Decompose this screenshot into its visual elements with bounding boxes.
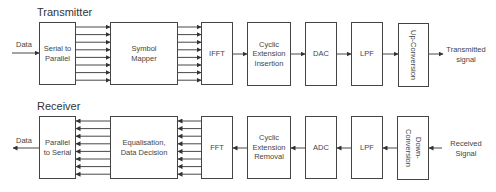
adc-block: ADC xyxy=(305,116,337,179)
block-label: Equalisation, Data Decision xyxy=(118,138,170,157)
fft-block: FFT xyxy=(201,116,233,179)
cyclic-extension-removal-block: Cyclic Extension Removal xyxy=(247,116,291,179)
transmitted-signal-label: Transmittedsignal xyxy=(443,45,489,64)
lpf-tx-block: LPF xyxy=(351,22,383,86)
serial-to-parallel-block: Serial to Parallel xyxy=(39,22,76,85)
block-label: DAC xyxy=(313,49,329,59)
block-label: Symbol Mapper xyxy=(126,44,162,63)
down-conversion-block: Down-Conversion xyxy=(397,116,429,180)
block-label: Up-Conversion xyxy=(409,27,419,83)
label-line: signal xyxy=(443,55,489,65)
cyclic-extension-insertion-block: Cyclic Extension Insertion xyxy=(247,22,291,86)
lpf-rx-block: LPF xyxy=(351,116,383,179)
block-label: Down-Conversion xyxy=(404,120,423,176)
transmitter-title: Transmitter xyxy=(37,6,92,18)
dac-block: DAC xyxy=(305,22,337,86)
ifft-block: IFFT xyxy=(201,22,233,85)
symbol-mapper-block: Symbol Mapper xyxy=(110,22,178,85)
block-label: FFT xyxy=(210,143,224,153)
block-label: Serial to Parallel xyxy=(43,44,73,63)
rx-output-data-label: Data xyxy=(16,136,32,146)
label-line: Signal xyxy=(443,149,489,159)
block-label: Cyclic Extension Removal xyxy=(249,133,289,162)
block-label: Cyclic Extension Insertion xyxy=(249,40,289,69)
block-label: ADC xyxy=(313,143,329,153)
equalisation-data-decision-block: Equalisation, Data Decision xyxy=(110,116,178,179)
block-label: LPF xyxy=(360,143,374,153)
receiver-title: Receiver xyxy=(37,100,80,112)
label-line: Transmitted xyxy=(443,45,489,55)
parallel-to-serial-block: Parallel to Serial xyxy=(39,116,76,179)
block-label: Parallel to Serial xyxy=(42,138,74,157)
tx-input-data-label: Data xyxy=(16,40,32,50)
received-signal-label: ReceivedSignal xyxy=(443,139,489,158)
block-label: IFFT xyxy=(209,49,225,59)
up-conversion-block: Up-Conversion xyxy=(398,23,429,87)
block-label: LPF xyxy=(360,49,374,59)
label-line: Received xyxy=(443,139,489,149)
